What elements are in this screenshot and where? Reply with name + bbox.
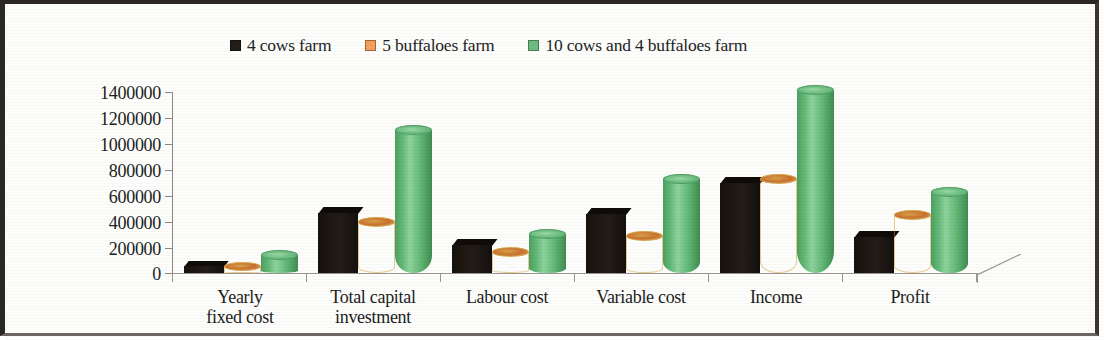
y-tick-mark-0 (165, 273, 172, 274)
y-tick-label-1200000: 1200000 (51, 109, 161, 130)
axis-depth-tick (977, 273, 978, 283)
x-tick-mark-3 (574, 273, 575, 282)
bar-labour-cost-4-cows-farm[interactable] (452, 245, 492, 273)
bar-labour-cost-5-buffaloes-farm[interactable] (492, 252, 529, 273)
axis-depth-line (977, 254, 1021, 275)
bar-profit-10-cows-and-4-buffaloes-farm[interactable] (931, 192, 968, 273)
bar-top-ellipse (358, 217, 395, 227)
x-axis-label-profit: Profit (845, 287, 975, 307)
x-axis-label-yearly-fixed-cost: Yearly fixed cost (175, 287, 305, 327)
y-tick-label-1400000: 1400000 (51, 83, 161, 104)
bar-top-ellipse (797, 85, 834, 95)
bar-total-capital-investment-10-cows-and-4-buffaloes-farm[interactable] (395, 130, 432, 273)
bar-body (720, 183, 760, 273)
bar-top-ellipse (626, 231, 663, 241)
y-tick-label-0: 0 (51, 264, 161, 285)
x-axis-label-line-1: Yearly (175, 287, 305, 307)
bar-total-capital-investment-5-buffaloes-farm[interactable] (358, 222, 395, 273)
bar-top-ellipse (261, 250, 298, 260)
bar-body (318, 213, 358, 273)
bar-income-10-cows-and-4-buffaloes-farm[interactable] (797, 90, 834, 273)
bar-body (358, 222, 395, 273)
bar-income-5-buffaloes-farm[interactable] (760, 179, 797, 273)
bar-body (452, 245, 492, 273)
x-axis-label-line-1: Variable cost (575, 287, 707, 307)
y-tick-mark-600000 (165, 196, 172, 197)
x-axis-label-total-capital-investment: Total capital investment (302, 287, 444, 327)
y-tick-label-1000000: 1000000 (51, 135, 161, 156)
bar-body (854, 237, 894, 273)
y-tick-mark-400000 (165, 222, 172, 223)
bar-profit-5-buffaloes-farm[interactable] (894, 215, 931, 273)
x-tick-mark-0 (172, 273, 173, 282)
y-tick-label-800000: 800000 (51, 161, 161, 182)
bar-top-ellipse (760, 174, 797, 184)
bar-total-capital-investment-4-cows-farm[interactable] (318, 213, 358, 273)
x-axis-label-variable-cost: Variable cost (575, 287, 707, 307)
x-axis-label-line-1: Profit (845, 287, 975, 307)
bar-body (395, 130, 432, 273)
bar-yearly-fixed-cost-4-cows-farm[interactable] (184, 266, 224, 273)
bar-income-4-cows-farm[interactable] (720, 183, 760, 273)
bar-top-ellipse (395, 125, 432, 135)
bar-top-ellipse (663, 174, 700, 184)
bar-body (894, 215, 931, 273)
x-tick-mark-1 (306, 273, 307, 282)
bar-variable-cost-10-cows-and-4-buffaloes-farm[interactable] (663, 179, 700, 273)
bar-yearly-fixed-cost-10-cows-and-4-buffaloes-farm[interactable] (261, 255, 298, 273)
bar-body (586, 214, 626, 273)
y-tick-label-600000: 600000 (51, 187, 161, 208)
bar-profit-4-cows-farm[interactable] (854, 237, 894, 273)
y-tick-mark-1200000 (165, 118, 172, 119)
x-axis-label-labour-cost: Labour cost (442, 287, 572, 307)
y-tick-mark-200000 (165, 248, 172, 249)
x-axis-label-line-2: investment (302, 307, 444, 327)
bar-top-ellipse (894, 210, 931, 220)
y-tick-mark-1400000 (165, 92, 172, 93)
bar-top-ellipse (492, 247, 529, 257)
bar-variable-cost-4-cows-farm[interactable] (586, 214, 626, 273)
bar-body (626, 236, 663, 273)
bar-top-ellipse (529, 229, 566, 239)
y-tick-mark-1000000 (165, 144, 172, 145)
bar-labour-cost-10-cows-and-4-buffaloes-farm[interactable] (529, 234, 566, 273)
bar-body (663, 179, 700, 273)
bar-yearly-fixed-cost-5-buffaloes-farm[interactable] (224, 267, 261, 273)
bar-body (184, 266, 224, 273)
x-axis-label-line-2: fixed cost (175, 307, 305, 327)
y-axis-line (172, 92, 173, 273)
bar-top-ellipse (224, 262, 261, 271)
y-tick-label-400000: 400000 (51, 213, 161, 234)
y-tick-label-200000: 200000 (51, 239, 161, 260)
x-tick-mark-5 (842, 273, 843, 282)
x-axis-label-income: Income (711, 287, 841, 307)
bar-top-ellipse (931, 187, 968, 197)
x-tick-mark-4 (708, 273, 709, 282)
x-axis-label-line-1: Income (711, 287, 841, 307)
bar-body (529, 234, 566, 273)
x-axis-label-line-1: Total capital (302, 287, 444, 307)
bar-variable-cost-5-buffaloes-farm[interactable] (626, 236, 663, 273)
bar-body (931, 192, 968, 273)
x-axis-label-line-1: Labour cost (442, 287, 572, 307)
chart-plot-area: 1400000 1200000 1000000 800000 600000 40… (5, 4, 1104, 340)
x-tick-mark-2 (440, 273, 441, 282)
bar-body (797, 90, 834, 273)
bar-body (760, 179, 797, 273)
y-tick-mark-800000 (165, 170, 172, 171)
